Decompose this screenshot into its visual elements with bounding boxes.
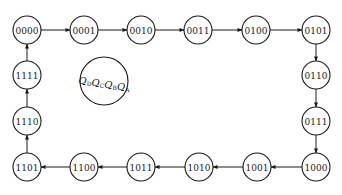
state-node-1100: 1100	[70, 153, 98, 181]
state-label: 0000	[16, 26, 39, 36]
state-node-0001: 0001	[70, 16, 98, 44]
state-node-0111: 0111	[302, 107, 330, 135]
state-node-0000: 0000	[13, 16, 41, 44]
state-label: 0010	[130, 26, 153, 36]
state-label: 0101	[305, 26, 328, 36]
transition-arrows	[27, 30, 316, 167]
state-label: 1000	[305, 163, 328, 173]
state-node-0101: 0101	[302, 16, 330, 44]
state-node-1111: 1111	[13, 61, 41, 89]
state-label: 0001	[73, 26, 96, 36]
legend-circle: QDQCQBQA	[79, 57, 131, 105]
state-label: 1110	[16, 117, 39, 127]
state-label: 0110	[305, 71, 328, 81]
state-label: 0011	[187, 26, 210, 36]
state-node-1011: 1011	[127, 153, 155, 181]
state-label: 1011	[130, 163, 153, 173]
state-label: 1111	[16, 71, 39, 81]
state-node-1000: 1000	[302, 153, 330, 181]
state-diagram: 0000000100100011010001010110011110001001…	[0, 0, 342, 195]
state-nodes: 0000000100100011010001010110011110001001…	[13, 16, 330, 181]
state-node-1110: 1110	[13, 107, 41, 135]
state-node-0010: 0010	[127, 16, 155, 44]
state-node-0011: 0011	[184, 16, 212, 44]
state-label: 1100	[73, 163, 96, 173]
state-node-1101: 1101	[13, 153, 41, 181]
state-node-1001: 1001	[243, 153, 271, 181]
state-label: 0111	[305, 117, 328, 127]
state-label: 1001	[246, 163, 269, 173]
state-node-0100: 0100	[242, 16, 270, 44]
state-label: 1010	[188, 163, 211, 173]
state-node-0110: 0110	[302, 61, 330, 89]
state-node-1010: 1010	[185, 153, 213, 181]
state-label: 0100	[245, 26, 268, 36]
state-label: 1101	[16, 163, 39, 173]
